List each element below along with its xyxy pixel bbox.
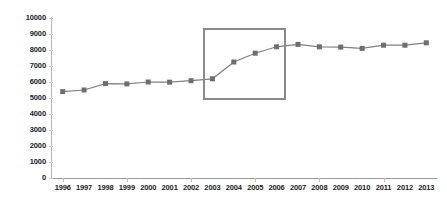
data-point-marker [317,44,322,49]
data-point-marker [360,46,365,51]
data-point-marker [189,78,194,83]
data-point-marker [381,43,386,48]
highlight-box [203,28,285,100]
data-point-marker [338,45,343,50]
data-point-marker [402,43,407,48]
line-chart: 1000090008000700060005000400030002000100… [0,0,447,201]
data-point-marker [60,89,65,94]
data-point-marker [124,81,129,86]
data-point-marker [295,42,300,47]
data-point-marker [424,40,429,45]
data-point-marker [103,81,108,86]
data-point-marker [167,80,172,85]
data-point-marker [146,80,151,85]
data-point-marker [82,88,87,93]
